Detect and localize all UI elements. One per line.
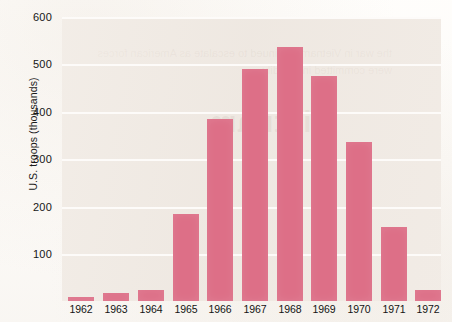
bar-chart-figure: U.S. troops (thousands) 600 500 400 300 …	[0, 0, 452, 322]
x-axis-tick-labels: 1962 1963 1964 1965 1966 1967 1968 1969 …	[62, 303, 441, 319]
bar-1962[interactable]	[68, 297, 94, 301]
x-tick-label-1962: 1962	[61, 303, 101, 315]
y-axis-tick-labels: 600 500 400 300 200 100	[0, 0, 62, 322]
bars-layer	[62, 17, 441, 301]
bar-1967[interactable]	[242, 69, 268, 301]
bar-1969[interactable]	[311, 76, 337, 301]
y-tick-label-600: 600	[33, 11, 52, 23]
y-tick-label-100: 100	[33, 248, 52, 260]
bar-1971[interactable]	[381, 227, 407, 301]
bar-1966[interactable]	[207, 119, 233, 301]
bar-1972[interactable]	[415, 290, 441, 301]
plot-area: the war in Vietnam continued to escalate…	[62, 17, 441, 301]
bar-1970[interactable]	[346, 142, 372, 301]
y-tick-label-200: 200	[33, 201, 52, 213]
x-tick-label-1967: 1967	[235, 303, 275, 315]
bar-1968[interactable]	[277, 47, 303, 301]
bar-1965[interactable]	[173, 214, 199, 301]
x-tick-label-1964: 1964	[131, 303, 171, 315]
x-tick-label-1969: 1969	[304, 303, 344, 315]
x-tick-label-1972: 1972	[408, 303, 448, 315]
bar-1963[interactable]	[103, 293, 129, 301]
y-tick-label-500: 500	[33, 58, 52, 70]
x-tick-label-1970: 1970	[339, 303, 379, 315]
y-tick-label-400: 400	[33, 106, 52, 118]
bar-1964[interactable]	[138, 290, 164, 301]
x-tick-label-1966: 1966	[200, 303, 240, 315]
x-tick-label-1963: 1963	[96, 303, 136, 315]
y-tick-label-300: 300	[33, 153, 52, 165]
